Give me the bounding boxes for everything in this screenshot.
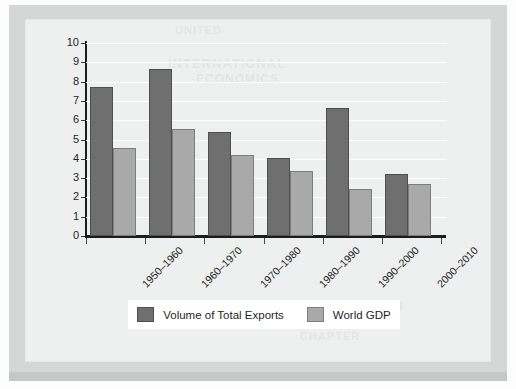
chart-legend: Volume of Total Exports World GDP: [128, 300, 400, 329]
y-axis-tick-label: 3: [27, 171, 79, 183]
bar-world-gdp: [172, 129, 195, 236]
bar-exports: [90, 87, 113, 236]
bar-exports: [267, 158, 290, 236]
legend-item-exports[interactable]: Volume of Total Exports: [137, 307, 284, 322]
y-axis-tick-label: 1: [27, 210, 79, 222]
bar-world-gdp: [408, 184, 431, 236]
scanned-page: UNITED INTERNATIONAL ECONOMICS TRADE GRO…: [0, 0, 516, 389]
legend-label-exports: Volume of Total Exports: [163, 309, 284, 321]
y-axis-tick-label: 8: [27, 75, 79, 87]
y-axis-tick-label: 7: [27, 94, 79, 106]
bar-world-gdp: [113, 148, 136, 236]
x-axis-tick-label: 1970–1980: [257, 244, 303, 290]
y-axis-tick-label: 5: [27, 133, 79, 145]
bar-exports: [208, 132, 231, 236]
legend-item-world-gdp[interactable]: World GDP: [307, 307, 391, 322]
y-axis-tick-label: 6: [27, 113, 79, 125]
y-axis-tick-label: 0: [27, 229, 79, 241]
bar-series-group: [86, 43, 441, 236]
x-axis-labels: 1950–19601960–19701970–19801980–19901990…: [86, 238, 446, 308]
bar-chart: 012345678910 1950–19601960–19701970–1980…: [25, 19, 491, 362]
x-axis-tick-label: 2000–2010: [435, 244, 481, 290]
bar-exports: [326, 108, 349, 236]
x-axis-tick-label: 1990–2000: [376, 244, 422, 290]
y-axis-tick-label: 4: [27, 152, 79, 164]
bar-world-gdp: [290, 171, 313, 236]
bar-world-gdp: [231, 155, 254, 236]
legend-swatch-world-gdp-icon: [307, 307, 324, 322]
legend-swatch-exports-icon: [137, 307, 154, 322]
y-axis-tick-label: 2: [27, 190, 79, 202]
y-axis-tick-label: 9: [27, 55, 79, 67]
page-border-shadow: [9, 372, 507, 381]
legend-label-world-gdp: World GDP: [333, 309, 391, 321]
x-axis-tick-label: 1980–1990: [316, 244, 362, 290]
bar-world-gdp: [349, 189, 372, 236]
y-axis-labels: 012345678910: [25, 43, 79, 236]
y-axis-tick-label: 10: [27, 36, 79, 48]
plot-area: [86, 43, 441, 236]
x-axis-tick-label: 1950–1960: [139, 244, 185, 290]
bar-exports: [149, 69, 172, 236]
bar-exports: [385, 174, 408, 236]
x-axis-tick-label: 1960–1970: [198, 244, 244, 290]
